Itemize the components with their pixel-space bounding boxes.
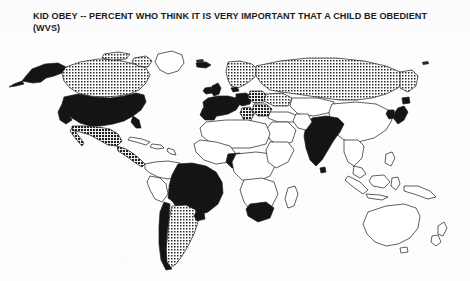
region-australia xyxy=(363,204,420,246)
region-central-asia xyxy=(290,98,334,116)
region-japan xyxy=(394,106,408,124)
region-malaysia xyxy=(353,166,366,178)
region-madagascar xyxy=(285,186,298,208)
region-united-kingdom xyxy=(211,83,221,96)
region-argentina xyxy=(166,205,198,268)
region-sulawesi xyxy=(391,177,400,190)
region-tasmania xyxy=(400,247,408,253)
region-philippines xyxy=(385,152,395,166)
region-cuba xyxy=(128,137,150,145)
region-indochina xyxy=(344,140,364,166)
page-title: KID OBEY -- PERCENT WHO THINK IT IS VERY… xyxy=(33,11,453,34)
region-new-guinea xyxy=(404,186,436,199)
region-russia-far-east xyxy=(400,70,418,92)
region-alaska xyxy=(22,63,66,83)
scanned-map-page: KID OBEY -- PERCENT WHO THINK IT IS VERY… xyxy=(0,0,470,281)
map-svg xyxy=(0,36,470,281)
region-arctic-islands xyxy=(102,52,130,60)
region-ireland xyxy=(203,87,212,94)
region-florida xyxy=(131,116,141,128)
region-ukraine xyxy=(264,93,292,106)
region-aleutians xyxy=(9,81,24,87)
region-iceland xyxy=(196,62,211,68)
region-sumatra xyxy=(345,176,368,194)
region-java xyxy=(366,194,388,200)
region-new-zealand-south xyxy=(431,235,441,246)
region-central-america xyxy=(117,146,145,167)
world-choropleth-map xyxy=(0,36,470,281)
region-hokkaido xyxy=(402,97,410,104)
region-greenland xyxy=(155,51,184,74)
scan-speck xyxy=(422,61,429,65)
region-scandinavia xyxy=(226,61,258,88)
region-borneo xyxy=(369,175,390,188)
region-hispaniola xyxy=(150,144,164,149)
region-peru xyxy=(147,176,168,202)
region-new-zealand xyxy=(438,222,447,236)
region-lesser-antilles xyxy=(167,148,176,155)
region-south-africa xyxy=(246,202,274,222)
region-sri-lanka xyxy=(320,167,326,173)
